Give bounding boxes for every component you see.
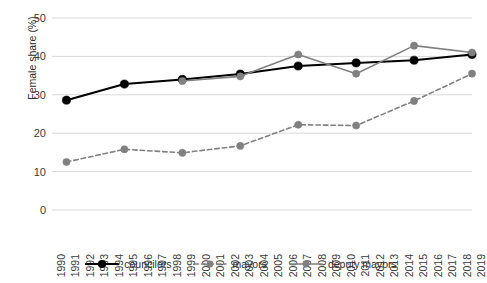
y-tick-label: 30 [20, 89, 46, 100]
data-point [295, 51, 302, 58]
legend-marker-icon [193, 258, 227, 270]
chart-legend: councilorsmayorsdeputy mayors [0, 258, 482, 270]
data-point [237, 73, 244, 80]
x-axis-tick-labels: 1990199119921993199419951996199719981999… [52, 212, 472, 258]
data-point [353, 122, 360, 129]
y-tick-label: 0 [20, 205, 46, 216]
data-point [352, 59, 360, 67]
legend-item-mayors[interactable]: mayors [193, 258, 266, 270]
data-point [353, 70, 360, 77]
data-point [179, 149, 186, 156]
y-tick-label: 50 [20, 13, 46, 24]
data-point [62, 96, 70, 104]
data-point [410, 56, 418, 64]
y-tick-label: 20 [20, 128, 46, 139]
data-point [468, 70, 475, 77]
series-layer [52, 18, 472, 210]
legend-marker-icon [85, 258, 119, 270]
data-point [63, 158, 70, 165]
legend-item-deputy-mayors[interactable]: deputy mayors [289, 258, 397, 270]
legend-label: mayors [232, 258, 266, 270]
legend-marker-icon [289, 258, 323, 270]
data-point [121, 146, 128, 153]
legend-label: deputy mayors [328, 258, 397, 270]
legend-label: councilors [124, 258, 171, 270]
series-councilors [62, 50, 476, 104]
data-point [237, 142, 244, 149]
data-point [294, 62, 302, 70]
series-deputy-mayors [179, 42, 476, 85]
y-tick-label: 10 [20, 166, 46, 177]
legend-item-councilors[interactable]: councilors [85, 258, 171, 270]
data-point [120, 80, 128, 88]
y-tick-label: 40 [20, 51, 46, 62]
data-point [179, 77, 186, 84]
data-point [410, 42, 417, 49]
data-point [295, 121, 302, 128]
data-point [410, 97, 417, 104]
y-axis-tick-labels: 01020304050 [16, 18, 46, 210]
data-point [468, 49, 475, 56]
plot-area [52, 18, 472, 210]
